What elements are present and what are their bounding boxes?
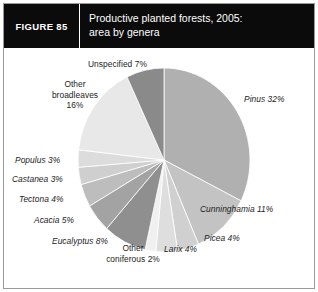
slice-label-picea: Picea 4% <box>204 233 240 244</box>
slice-label-other-coniferous-line-1: Other <box>122 243 143 253</box>
slice-label-populus: Populus 3% <box>15 155 60 166</box>
slice-label-other-coniferous: Other coniferous 2% <box>104 243 162 264</box>
slice-label-other-broadleaves-line-3: 16% <box>67 100 84 110</box>
slice-label-other-broadleaves-line-1: Other <box>64 79 85 89</box>
slice-label-cunninghamia: Cunninghamia 11% <box>200 204 273 215</box>
slice-label-castanea: Castanea 3% <box>12 174 63 185</box>
slice-label-other-broadleaves: Other broadleaves 16% <box>44 79 106 111</box>
figure-title: Productive planted forests, 2005: area b… <box>80 4 314 48</box>
slice-label-larix: Larix 4% <box>164 244 197 255</box>
figure-number-tag: FIGURE 85 <box>4 4 80 48</box>
slice-label-acacia: Acacia 5% <box>34 215 74 226</box>
figure-panel: FIGURE 85 Productive planted forests, 20… <box>0 0 318 292</box>
slice-label-unspecified: Unspecified 7% <box>88 59 147 70</box>
slice-label-pinus: Pinus 32% <box>244 94 285 105</box>
figure-title-line-2: area by genera <box>89 26 308 40</box>
slice-label-eucalyptus: Eucalyptus 8% <box>52 236 108 247</box>
figure-header: FIGURE 85 Productive planted forests, 20… <box>4 4 314 48</box>
slice-label-tectona: Tectona 4% <box>19 194 63 205</box>
slice-label-other-broadleaves-line-2: broadleaves <box>52 90 98 100</box>
slice-label-other-coniferous-line-2: coniferous 2% <box>106 254 160 264</box>
figure-title-line-1: Productive planted forests, 2005: <box>89 12 308 26</box>
chart-plot-area: Unspecified 7% Other broadleaves 16% Pop… <box>4 48 314 286</box>
